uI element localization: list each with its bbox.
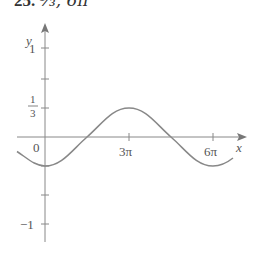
x-axis-label: x (235, 140, 242, 155)
y-tick-label-1: 1 (29, 41, 36, 56)
chart: y 1 1 3 0 3π 6π x −1 (0, 0, 256, 260)
y-tick-label-third-num: 1 (30, 93, 36, 105)
x-tick-label-3pi: 3π (119, 144, 133, 159)
origin-label: 0 (33, 140, 40, 155)
x-tick-label-6pi: 6π (204, 144, 218, 159)
y-tick-label-neg1: −1 (20, 217, 34, 232)
y-tick-label-third-den: 3 (30, 107, 36, 119)
